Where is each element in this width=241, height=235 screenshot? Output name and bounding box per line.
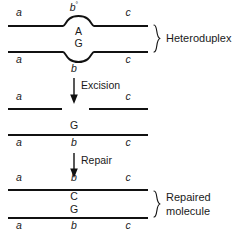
- bottom-strand-right-marker: c: [125, 53, 131, 65]
- top-strand-right-marker: c: [125, 6, 131, 18]
- stage-heteroduplex: a b° c A G a b c Heteroduplex: [8, 1, 232, 74]
- repaired-group-label-line2: molecule: [166, 205, 210, 217]
- repaired-bottom-strand-right-marker: c: [125, 219, 131, 231]
- heteroduplex-top-strand: a b° c A: [8, 1, 148, 37]
- bottom-strand-base-g: G: [74, 37, 82, 49]
- excision-step: Excision: [70, 78, 120, 104]
- excision-arrow-head-icon: [70, 95, 78, 105]
- top-strand-left-marker: a: [16, 6, 22, 18]
- repaired-top-strand-left-marker: a: [16, 171, 22, 183]
- excised-bottom-strand-base-g: G: [70, 119, 78, 131]
- bottom-strand-bulge-marker: b: [71, 62, 77, 74]
- bottom-strand-left-marker: a: [16, 53, 22, 65]
- repaired-brace: [154, 191, 160, 217]
- repair-arrow-label: Repair: [81, 154, 112, 166]
- excised-bottom-strand: G a b c: [8, 119, 148, 148]
- heteroduplex-brace: [154, 25, 160, 52]
- excised-bottom-strand-left-marker: a: [16, 136, 22, 148]
- repaired-bottom-strand-middle-marker: b: [71, 219, 77, 231]
- excised-top-strand-left-marker: a: [16, 90, 22, 102]
- repaired-bottom-strand: G a b c: [8, 203, 148, 231]
- excision-arrow-label: Excision: [81, 79, 120, 91]
- top-strand-base-a: A: [75, 25, 82, 37]
- repaired-group-label-line1: Repaired: [166, 191, 211, 203]
- repaired-top-strand-middle-marker: b: [71, 171, 77, 183]
- heteroduplex-brace-path: [154, 25, 160, 52]
- repaired-top-strand: a b c C: [8, 171, 148, 202]
- figure-canvas: a b° c A G a b c Heteroduplex Exc: [0, 0, 241, 235]
- heteroduplex-bottom-strand: G a b c: [8, 37, 148, 74]
- top-strand-bulge-marker-degree-icon: °: [76, 1, 79, 8]
- stage-excised: a c G a b c: [8, 90, 148, 148]
- excised-top-strand: a c: [8, 90, 148, 109]
- heteroduplex-group-label: Heteroduplex: [166, 32, 232, 44]
- repaired-brace-path: [154, 191, 160, 217]
- repaired-top-strand-right-marker: c: [125, 171, 131, 183]
- excised-bottom-strand-right-marker: c: [125, 136, 131, 148]
- stage-repaired: a b c C G a b c Repaired molecule: [8, 171, 211, 231]
- excised-bottom-strand-middle-marker: b: [71, 136, 77, 148]
- repaired-bottom-strand-base-g: G: [70, 203, 78, 215]
- repaired-bottom-strand-left-marker: a: [16, 219, 22, 231]
- top-strand-bulge-marker: b°: [70, 1, 79, 13]
- excised-top-strand-right-marker: c: [125, 90, 131, 102]
- repaired-top-strand-base-c: C: [70, 190, 78, 202]
